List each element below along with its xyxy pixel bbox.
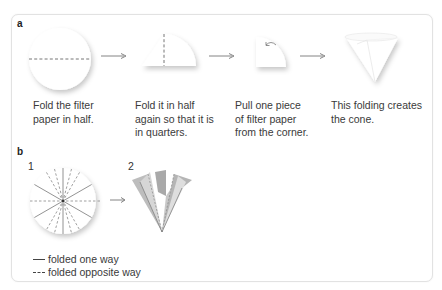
right-arrow-icon xyxy=(101,53,127,59)
step-4-caption: This folding creates the cone. xyxy=(331,99,422,126)
caption-line: again so that it is xyxy=(135,113,214,127)
caption-line: Fold it in half xyxy=(135,99,214,113)
right-arrow-icon xyxy=(300,53,326,59)
step-1-caption: Fold the filter paper in half. xyxy=(33,99,94,126)
legend-dashed-label: folded opposite way xyxy=(48,266,141,279)
legend-dashed-row: folded opposite way xyxy=(33,266,141,279)
quarter-circle-icon xyxy=(138,30,202,70)
caption-line: from the corner. xyxy=(235,126,309,140)
caption-line: in quarters. xyxy=(135,126,214,140)
legend-solid-label: folded one way xyxy=(48,253,119,266)
section-b-label: b xyxy=(17,146,23,157)
step-2-caption: Fold it in half again so that it is in q… xyxy=(135,99,214,140)
caption-line: of filter paper xyxy=(235,113,309,127)
fold-legend: folded one way folded opposite way xyxy=(33,253,141,279)
solid-line-icon xyxy=(33,259,45,260)
pleated-cone-icon xyxy=(130,166,196,236)
step-3-caption: Pull one piece of filter paper from the … xyxy=(235,99,309,140)
pleated-circle-icon xyxy=(30,166,102,238)
section-a-label: a xyxy=(17,18,23,29)
dashed-line-icon xyxy=(33,272,45,273)
legend-solid-row: folded one way xyxy=(33,253,141,266)
quarter-pull-corner-icon xyxy=(254,35,294,70)
caption-line: the cone. xyxy=(331,113,422,127)
cone-icon xyxy=(343,30,403,88)
right-arrow-icon xyxy=(110,197,126,203)
caption-line: Fold the filter xyxy=(33,99,94,113)
caption-line: Pull one piece xyxy=(235,99,309,113)
circle-folded-in-half-icon xyxy=(25,24,95,94)
right-arrow-icon xyxy=(209,53,235,59)
caption-line: paper in half. xyxy=(33,113,94,127)
caption-line: This folding creates xyxy=(331,99,422,113)
